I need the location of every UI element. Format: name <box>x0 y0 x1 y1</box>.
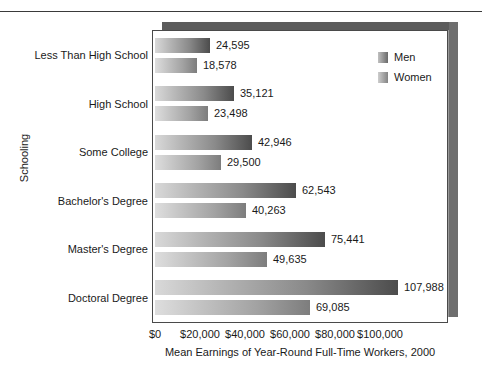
x-axis-title: Mean Earnings of Year-Round Full-Time Wo… <box>152 346 448 358</box>
y-axis-label-doctoral-degree: Doctoral Degree <box>8 292 148 304</box>
bar-group: 75,44149,635 <box>153 225 447 274</box>
bar-value-label: 107,988 <box>404 280 444 295</box>
men-swatch-icon <box>378 52 388 63</box>
legend-item-women[interactable]: Women <box>378 70 444 86</box>
legend-label: Women <box>394 70 432 85</box>
y-axis-title: Schooling <box>18 113 30 203</box>
chart-legend: MenWomen <box>378 50 444 90</box>
legend-item-men[interactable]: Men <box>378 50 444 66</box>
women-swatch-icon <box>378 72 388 83</box>
x-axis-tick-20000: $20,000 <box>180 327 220 341</box>
x-axis-tick-0: $0 <box>149 327 161 341</box>
bar-women-doctoral-degree[interactable] <box>155 300 310 315</box>
bar-group: 62,54340,263 <box>153 177 447 226</box>
bar-value-label: 49,635 <box>273 252 307 267</box>
bar-men-master-s-degree[interactable] <box>155 232 325 247</box>
x-axis-tick-labels: $0$20,000$40,000$60,000$80,000$100,000 <box>0 327 482 343</box>
bar-men-doctoral-degree[interactable] <box>155 280 398 295</box>
plot-drop-shadow-right-band <box>449 22 458 317</box>
bar-value-label: 18,578 <box>203 58 237 73</box>
bar-women-less-than-high-school[interactable] <box>155 58 197 73</box>
x-axis-tick-60000: $60,000 <box>270 327 310 341</box>
bar-value-label: 62,543 <box>302 183 336 198</box>
bar-women-some-college[interactable] <box>155 155 221 170</box>
x-axis-tick-40000: $40,000 <box>225 327 265 341</box>
bar-women-bachelor-s-degree[interactable] <box>155 203 246 218</box>
y-axis-label-high-school: High School <box>8 98 148 110</box>
bar-group: 42,94629,500 <box>153 128 447 177</box>
y-axis-label-less-than-high-school: Less Than High School <box>8 49 148 61</box>
bar-men-high-school[interactable] <box>155 86 234 101</box>
bar-value-label: 23,498 <box>214 106 248 121</box>
x-axis-tick-100000: $100,000 <box>357 327 403 341</box>
bar-men-less-than-high-school[interactable] <box>155 38 210 53</box>
bar-value-label: 69,085 <box>316 300 350 315</box>
legend-label: Men <box>394 50 415 65</box>
bar-men-bachelor-s-degree[interactable] <box>155 183 296 198</box>
bar-men-some-college[interactable] <box>155 135 252 150</box>
plot-drop-shadow-top-band <box>162 22 458 30</box>
bar-value-label: 35,121 <box>240 86 274 101</box>
bar-women-high-school[interactable] <box>155 106 208 121</box>
bar-value-label: 29,500 <box>227 155 261 170</box>
bar-women-master-s-degree[interactable] <box>155 252 267 267</box>
bar-value-label: 40,263 <box>252 203 286 218</box>
bar-value-label: 42,946 <box>258 135 292 150</box>
bar-value-label: 75,441 <box>331 232 365 247</box>
bar-group: 107,98869,085 <box>153 274 447 323</box>
bar-value-label: 24,595 <box>216 38 250 53</box>
x-axis-tick-80000: $80,000 <box>315 327 355 341</box>
y-axis-label-master-s-degree: Master's Degree <box>8 243 148 255</box>
bar-chart-figure: 24,59518,57835,12123,49842,94629,50062,5… <box>0 0 482 372</box>
